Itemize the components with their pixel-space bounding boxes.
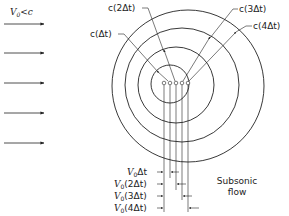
label-v4: V0(4Δt) [114,203,147,214]
emission-point [168,81,172,85]
emission-point [174,81,178,85]
label-c4: c(4Δt) [253,21,280,31]
displacement-guides [164,85,188,212]
label-v1: V0Δt [127,167,147,178]
label-c1: c(Δt) [90,29,112,39]
wavefront-labels: c(2Δt) c(Δt) c(3Δt) c(4Δt) [90,3,280,39]
subsonic-wavefront-diagram: V0<c c(2Δt) [0,0,289,216]
radius-arrow-c3 [183,37,210,81]
label-v3: V0(3Δt) [114,191,147,202]
displacement-dimensions [157,172,199,208]
flow-type-line1: Subsonic [217,176,258,186]
emission-points [162,81,190,85]
flow-arrows [4,24,44,143]
label-c3: c(3Δt) [239,4,266,14]
flow-type-label: Subsonic flow [217,176,258,197]
leader-c1 [118,34,158,72]
flow-type-line2: flow [228,187,247,197]
label-v2: V0(2Δt) [114,179,147,190]
emission-point [162,81,166,85]
radius-arrow-c1 [157,71,168,81]
displacement-labels: V0Δt V0(2Δt) V0(3Δt) V0(4Δt) [114,167,147,214]
label-c2: c(2Δt) [108,3,135,13]
radius-leaders [118,8,252,81]
svg-text:V0<c: V0<c [10,7,33,18]
leader-c3 [210,9,238,38]
condition-label: V0<c [10,7,33,18]
emission-point [186,81,190,85]
emission-point [180,81,184,85]
